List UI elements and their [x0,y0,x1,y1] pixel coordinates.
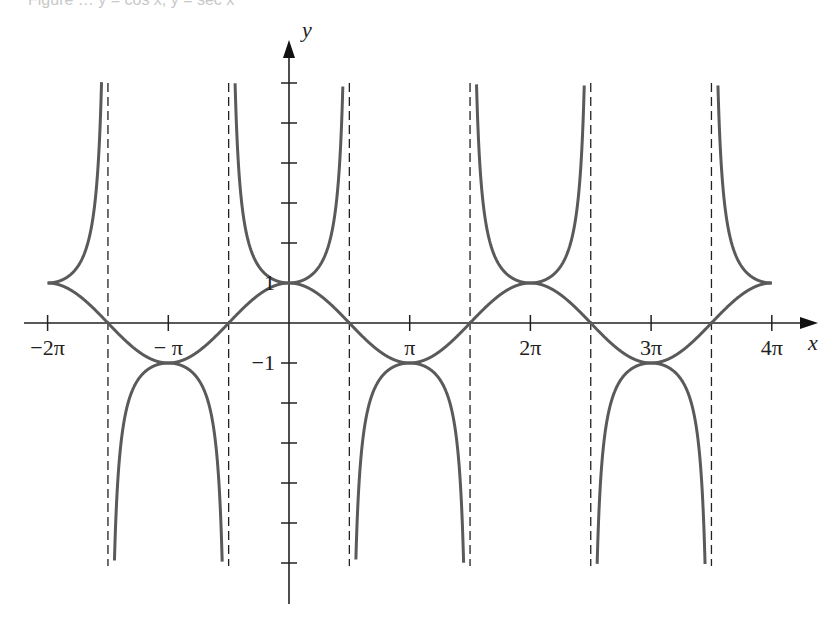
x-tick-label: 2π [519,335,541,360]
y-axis-arrow-icon [283,40,295,58]
x-tick-label: −2π [30,335,65,360]
y-axis-label: y [300,17,312,42]
y-tick-label: −1 [252,350,275,375]
x-tick-label: − π [154,335,183,360]
x-tick-label: 4π [761,335,783,360]
y-tick-label: 1 [264,270,275,295]
x-tick-label: π [404,335,415,360]
x-tick-label: 3π [640,335,662,360]
x-axis-label: x [807,330,818,355]
x-axis-arrow-icon [800,317,818,329]
trig-graph: x y −2π− ππ2π3π4π1−1 [0,0,837,623]
labels: x y −2π− ππ2π3π4π1−1 [30,17,818,375]
axes [24,40,818,604]
